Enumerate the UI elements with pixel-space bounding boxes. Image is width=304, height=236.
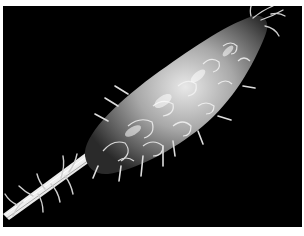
spiny-body — [85, 6, 285, 181]
sem-micrograph — [3, 6, 302, 227]
stalk — [3, 149, 98, 220]
micrograph-frame — [3, 6, 302, 227]
